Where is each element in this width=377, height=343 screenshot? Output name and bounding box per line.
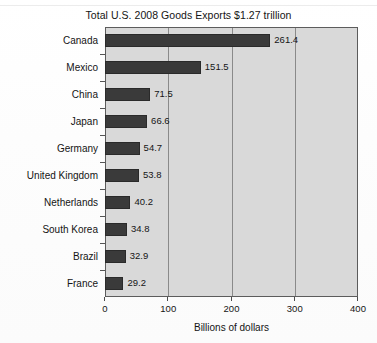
bar bbox=[105, 250, 126, 263]
bar-row: 53.8 bbox=[105, 162, 358, 189]
x-axis-tick-label: 300 bbox=[275, 303, 315, 314]
bar bbox=[105, 34, 270, 47]
bar bbox=[105, 196, 130, 209]
bar-row: 151.5 bbox=[105, 54, 358, 81]
y-axis-tick bbox=[100, 243, 105, 244]
bar-value-label: 151.5 bbox=[205, 60, 229, 73]
bar-row: 40.2 bbox=[105, 189, 358, 216]
y-axis-label-mexico: Mexico bbox=[0, 61, 98, 74]
bar-value-label: 53.8 bbox=[143, 168, 162, 181]
chart-title: Total U.S. 2008 Goods Exports $1.27 tril… bbox=[0, 9, 377, 21]
y-axis-label-canada: Canada bbox=[0, 34, 98, 47]
y-axis-label-china: China bbox=[0, 88, 98, 101]
bar bbox=[105, 61, 201, 74]
y-axis-tick bbox=[100, 270, 105, 271]
y-axis-tick bbox=[100, 54, 105, 55]
bar-value-label: 34.8 bbox=[131, 222, 150, 235]
y-axis-tick bbox=[100, 81, 105, 82]
x-axis-tick-400 bbox=[357, 297, 358, 301]
y-axis-category-labels: CanadaMexicoChinaJapanGermanyUnited King… bbox=[0, 27, 98, 297]
bars-layer: 261.4151.571.566.654.753.840.234.832.929… bbox=[105, 27, 358, 297]
y-axis-label-united-kingdom: United Kingdom bbox=[0, 169, 98, 182]
x-axis-tick-label: 0 bbox=[85, 303, 125, 314]
bar-value-label: 54.7 bbox=[144, 141, 163, 154]
x-axis-title: Billions of dollars bbox=[105, 322, 358, 333]
bar bbox=[105, 277, 123, 290]
bar-row: 29.2 bbox=[105, 270, 358, 297]
bar-row: 66.6 bbox=[105, 108, 358, 135]
y-axis-label-brazil: Brazil bbox=[0, 250, 98, 263]
y-axis-tick bbox=[100, 135, 105, 136]
y-axis-label-netherlands: Netherlands bbox=[0, 196, 98, 209]
y-axis-tick bbox=[100, 189, 105, 190]
y-axis-label-france: France bbox=[0, 277, 98, 290]
bar-value-label: 66.6 bbox=[151, 114, 170, 127]
bar-row: 32.9 bbox=[105, 243, 358, 270]
x-axis-tick-100 bbox=[167, 297, 168, 301]
x-axis-tick-label: 400 bbox=[338, 303, 377, 314]
bar-chart: Total U.S. 2008 Goods Exports $1.27 tril… bbox=[0, 0, 377, 343]
y-axis-label-japan: Japan bbox=[0, 115, 98, 128]
y-axis-label-south-korea: South Korea bbox=[0, 223, 98, 236]
bar bbox=[105, 223, 127, 236]
y-axis-tick bbox=[100, 216, 105, 217]
x-axis-tick-0 bbox=[104, 297, 105, 301]
x-axis-tick-label: 200 bbox=[212, 303, 252, 314]
bar-row: 54.7 bbox=[105, 135, 358, 162]
bar bbox=[105, 169, 139, 182]
x-axis-tick-label: 100 bbox=[148, 303, 188, 314]
y-axis-tick bbox=[100, 108, 105, 109]
y-axis-tick bbox=[100, 162, 105, 163]
bar-value-label: 32.9 bbox=[130, 249, 149, 262]
bar-row: 71.5 bbox=[105, 81, 358, 108]
bar-value-label: 40.2 bbox=[134, 195, 153, 208]
bar bbox=[105, 142, 140, 155]
bar bbox=[105, 88, 150, 101]
bar bbox=[105, 115, 147, 128]
bar-value-label: 261.4 bbox=[274, 33, 298, 46]
bar-value-label: 71.5 bbox=[154, 87, 173, 100]
x-axis-tick-300 bbox=[294, 297, 295, 301]
bar-value-label: 29.2 bbox=[127, 276, 146, 289]
y-axis-label-germany: Germany bbox=[0, 142, 98, 155]
bar-row: 34.8 bbox=[105, 216, 358, 243]
bar-row: 261.4 bbox=[105, 27, 358, 54]
x-axis-tick-200 bbox=[231, 297, 232, 301]
